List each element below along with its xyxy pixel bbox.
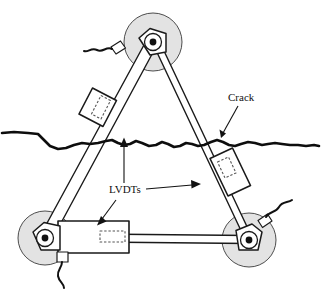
crack-label: Crack xyxy=(228,91,255,103)
crack-leader-line xyxy=(223,106,238,133)
connector-bottom-left xyxy=(57,252,68,262)
wheel-top-hub-dot xyxy=(150,39,157,46)
lvdt-bottom xyxy=(58,221,129,253)
cable-bottom-right xyxy=(266,200,292,217)
lvdts-annotation: LVDTs xyxy=(97,138,201,226)
lvdts-leader-downleft-line xyxy=(102,200,116,219)
crack-annotation: Crack xyxy=(220,91,255,138)
cable-top-left xyxy=(84,48,112,51)
connector-top-left xyxy=(111,41,126,54)
wheel-bottom-right-hub-dot xyxy=(246,237,253,244)
strut-right-bar xyxy=(150,38,255,243)
crack-leader-arrowhead xyxy=(220,130,227,139)
crack-path xyxy=(2,132,319,149)
lvdts-label: LVDTs xyxy=(109,183,141,195)
lvdts-leader-right-line xyxy=(146,185,192,189)
lvdts-leader-up-arrowhead xyxy=(120,138,128,148)
lvdt-bottom-core xyxy=(100,231,125,242)
cable-bottom-left xyxy=(58,262,64,288)
strut-left-bar xyxy=(40,39,158,242)
figure-root: Crack measurement frame with LVDTs xyxy=(0,0,321,291)
lvdt-right xyxy=(210,148,251,196)
wheel-bottom-left-hub-dot xyxy=(42,235,49,242)
lvdts-leader-right-arrowhead xyxy=(191,180,201,189)
crack-frame-diagram: Crack measurement frame with LVDTs xyxy=(0,0,321,291)
